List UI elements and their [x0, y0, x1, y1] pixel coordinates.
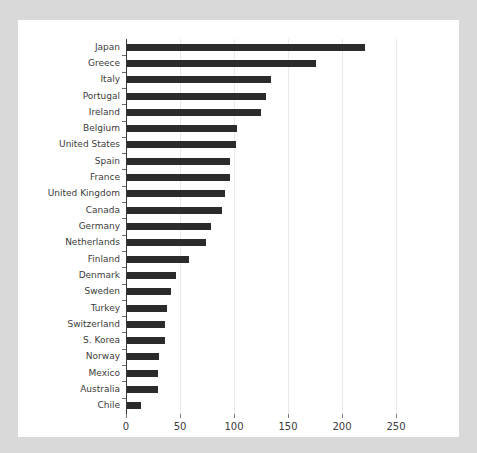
y-axis-tick-mark — [122, 300, 126, 301]
bar — [127, 174, 230, 181]
y-axis-tick-label: Switzerland — [68, 320, 121, 329]
y-axis-tick-label: United Kingdom — [48, 189, 120, 198]
y-axis-tick-mark — [122, 284, 126, 285]
x-axis-tick-mark — [126, 414, 127, 418]
bar — [127, 337, 165, 344]
y-axis-tick-mark — [122, 316, 126, 317]
y-axis-tick-label: Norway — [86, 352, 120, 361]
y-axis-tick-label: Belgium — [83, 124, 120, 133]
x-axis-tick-label: 250 — [386, 421, 405, 432]
y-axis-tick-label: S. Korea — [83, 336, 120, 345]
bar — [127, 386, 158, 393]
bar — [127, 76, 271, 83]
bar — [127, 402, 141, 409]
y-axis-tick-mark — [122, 121, 126, 122]
bar — [127, 93, 266, 100]
bar — [127, 158, 230, 165]
y-axis-tick-label: Turkey — [91, 304, 120, 313]
x-axis-tick-mark — [342, 414, 343, 418]
bar — [127, 44, 365, 51]
y-axis-tick-mark — [122, 332, 126, 333]
gridline — [288, 39, 289, 414]
y-axis-tick-label: Denmark — [79, 271, 120, 280]
y-axis-tick-label: Italy — [100, 75, 120, 84]
bar — [127, 272, 176, 279]
y-axis-tick-mark — [122, 218, 126, 219]
y-axis-tick-label: Portugal — [83, 92, 120, 101]
y-axis-tick-mark — [122, 88, 126, 89]
y-axis-tick-mark — [122, 267, 126, 268]
bar — [127, 256, 189, 263]
y-axis-tick-label: Japan — [95, 43, 120, 52]
y-axis-tick-mark — [122, 153, 126, 154]
x-axis-tick-label: 200 — [332, 421, 351, 432]
y-axis-tick-mark — [122, 251, 126, 252]
y-axis-tick-label: Netherlands — [65, 238, 120, 247]
y-axis-tick-mark — [122, 349, 126, 350]
y-axis-tick-mark — [122, 55, 126, 56]
gridline — [342, 39, 343, 414]
x-axis-tick-label: 100 — [224, 421, 243, 432]
y-axis-tick-mark — [122, 169, 126, 170]
bar — [127, 141, 236, 148]
y-axis-tick-mark — [122, 381, 126, 382]
y-axis-tick-label: Spain — [95, 157, 120, 166]
x-axis-tick-mark — [180, 414, 181, 418]
x-axis-tick-label: 0 — [123, 421, 129, 432]
bar — [127, 190, 225, 197]
x-axis-tick-mark — [396, 414, 397, 418]
y-axis-tick-label: France — [90, 173, 120, 182]
y-axis-tick-label: Ireland — [89, 108, 120, 117]
y-axis-tick-label: Finland — [88, 255, 120, 264]
y-axis-labels-group: JapanGreeceItalyPortugalIrelandBelgiumUn… — [22, 39, 120, 414]
y-axis-tick-label: Germany — [79, 222, 120, 231]
bar — [127, 321, 165, 328]
x-axis-tick-mark — [234, 414, 235, 418]
y-axis-tick-label: Chile — [97, 401, 120, 410]
bar — [127, 60, 316, 67]
y-axis-tick-mark — [122, 202, 126, 203]
y-axis-tick-mark — [122, 72, 126, 73]
x-axis-tick-label: 50 — [174, 421, 187, 432]
y-axis-tick-label: Australia — [80, 385, 120, 394]
bar — [127, 239, 206, 246]
y-axis-tick-label: Sweden — [84, 287, 120, 296]
y-axis-tick-mark — [122, 398, 126, 399]
bar — [127, 288, 171, 295]
bar — [127, 109, 261, 116]
bar — [127, 305, 167, 312]
y-axis-tick-mark — [122, 137, 126, 138]
bar — [127, 353, 159, 360]
bar — [127, 370, 158, 377]
plot-area: JapanGreeceItalyPortugalIrelandBelgiumUn… — [126, 39, 423, 414]
bar — [127, 207, 222, 214]
bar — [127, 125, 237, 132]
y-axis-tick-label: Mexico — [89, 369, 120, 378]
x-axis-tick-mark — [288, 414, 289, 418]
y-axis-tick-label: United States — [59, 140, 120, 149]
bar — [127, 223, 211, 230]
y-axis-tick-mark — [122, 365, 126, 366]
figure-panel: JapanGreeceItalyPortugalIrelandBelgiumUn… — [18, 20, 459, 437]
y-axis-tick-label: Greece — [88, 59, 120, 68]
x-axis-labels-group: 050100150200250 — [126, 414, 423, 444]
gridline — [396, 39, 397, 414]
y-axis-tick-mark — [122, 104, 126, 105]
x-axis-tick-label: 150 — [278, 421, 297, 432]
y-axis-tick-label: Canada — [86, 206, 120, 215]
y-axis-tick-mark — [122, 235, 126, 236]
y-axis-tick-mark — [122, 186, 126, 187]
